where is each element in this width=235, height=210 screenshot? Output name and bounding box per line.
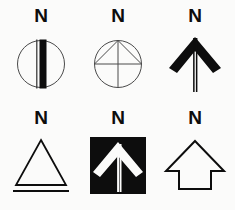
north-label: N	[156, 6, 234, 25]
north-arrow-inverted-square-icon	[79, 130, 157, 202]
north-label: N	[2, 6, 80, 25]
symbol-cell-north-arrow-circle-bar: N	[2, 2, 80, 107]
symbol-cell-north-arrow-triangle-baseline: N	[2, 104, 80, 209]
north-arrow-circle-bar-icon	[2, 28, 80, 100]
symbol-cell-north-arrow-circle-cross-rays: N	[79, 2, 157, 107]
north-arrow-triangle-baseline-icon	[2, 130, 80, 202]
symbol-cell-north-arrow-inverted-square: N	[79, 104, 157, 209]
north-label: N	[79, 108, 157, 127]
north-label: N	[2, 108, 80, 127]
symbol-cell-north-arrow-chevron: N	[156, 2, 234, 107]
north-label: N	[156, 108, 234, 127]
symbol-cell-north-arrow-block: N	[156, 104, 234, 209]
north-arrow-circle-cross-rays-icon	[79, 28, 157, 100]
north-arrow-chevron-icon	[156, 28, 234, 100]
symbol-sheet: N N N	[0, 0, 235, 210]
north-label: N	[79, 6, 157, 25]
north-arrow-block-icon	[156, 130, 234, 202]
